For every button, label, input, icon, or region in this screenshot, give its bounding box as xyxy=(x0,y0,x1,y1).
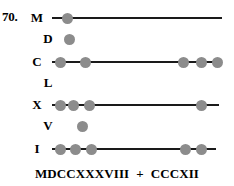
abacus-bead[interactable] xyxy=(86,144,97,155)
row-label-c: C xyxy=(29,53,45,71)
abacus-bead[interactable] xyxy=(70,144,81,155)
abacus-bead[interactable] xyxy=(84,100,95,111)
abacus-bead[interactable] xyxy=(68,100,79,111)
abacus-row-i: I xyxy=(0,140,234,158)
abacus-row-x: X xyxy=(0,96,234,114)
caption-left-numeral: MDCCXXXVIII xyxy=(35,166,129,181)
roman-abacus-figure: 70. MDCLXVI MDCCXXXVIII+CCCXII xyxy=(0,0,234,186)
abacus-bead[interactable] xyxy=(55,144,66,155)
abacus-rod xyxy=(52,17,222,19)
row-label-v: V xyxy=(40,117,56,135)
abacus-bead[interactable] xyxy=(62,13,73,24)
caption-operator: + xyxy=(129,166,151,182)
figure-caption: MDCCXXXVIII+CCCXII xyxy=(0,166,234,182)
row-label-x: X xyxy=(29,96,45,114)
row-label-i: I xyxy=(29,140,45,158)
row-label-m: M xyxy=(29,9,45,27)
abacus-bead[interactable] xyxy=(196,144,207,155)
abacus-bead[interactable] xyxy=(64,34,75,45)
abacus-bead[interactable] xyxy=(212,57,223,68)
abacus-row-l: L xyxy=(0,74,234,92)
abacus-row-m: M xyxy=(0,9,234,27)
row-label-l: L xyxy=(40,74,56,92)
abacus-bead[interactable] xyxy=(55,100,66,111)
abacus-bead[interactable] xyxy=(180,144,191,155)
abacus-bead[interactable] xyxy=(80,57,91,68)
abacus-bead[interactable] xyxy=(196,57,207,68)
abacus-bead[interactable] xyxy=(196,100,207,111)
abacus-bead[interactable] xyxy=(55,57,66,68)
row-label-d: D xyxy=(40,30,56,48)
abacus-row-d: D xyxy=(0,30,234,48)
abacus-row-v: V xyxy=(0,117,234,135)
abacus-bead[interactable] xyxy=(77,121,88,132)
abacus-bead[interactable] xyxy=(178,57,189,68)
abacus-row-c: C xyxy=(0,53,234,71)
caption-right-numeral: CCCXII xyxy=(151,166,199,181)
